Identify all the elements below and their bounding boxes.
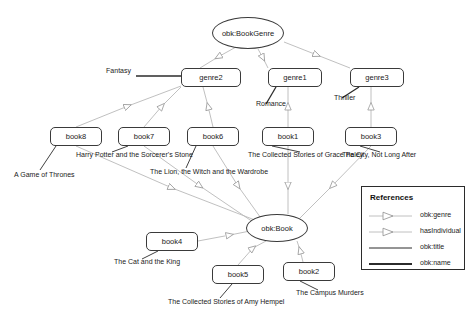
book-node-book2[interactable]: book2 [283,262,335,281]
book-title-label-title-book7: Harry Potter and the Sorcerer's Stone [76,151,193,158]
class-node-bookgenre[interactable]: obk:BookGenre [212,17,284,49]
book-node-book1[interactable]: book1 [262,127,314,146]
legend-swatch-hasindividual [368,225,414,239]
book-title-label-title-book2: The Campus Murders [296,289,364,296]
genre-node-genre2[interactable]: genre2 [181,68,241,87]
genre-name-label-fantasy: Fantasy [0,67,131,74]
legend-label-obk-title: obk:title [420,243,444,250]
book-node-book3[interactable]: book3 [345,127,397,146]
edges-hasindividual-genre [200,42,350,68]
legend-title: References [370,193,413,202]
book-node-book5[interactable]: book5 [212,265,264,284]
book-node-book6[interactable]: book6 [187,127,239,146]
genre-node-genre3[interactable]: genre3 [350,68,404,87]
book-title-label-title-book8: A Game of Thrones [14,171,75,178]
genre-name-label-romance: Romance [256,100,286,107]
legend-label-obk-genre: obk:genre [420,211,451,218]
legend-label-hasindividual: hasIndividual [420,227,461,234]
legend-item-hasindividual: hasIndividual [368,225,464,239]
book-title-label-title-book5: The Collected Stories of Amy Hempel [168,298,284,305]
book-title-label-title-book6: The Lion, the Witch and the Wardrobe [150,168,268,175]
book-title-label-title-book3: The City, Not Long After [342,151,416,158]
legend-item-obk-name: obk:name [368,257,464,271]
legend-label-obk-name: obk:name [420,259,451,266]
class-node-book[interactable]: obk:Book [246,214,308,242]
edges-obk-genre [76,86,371,127]
book-node-book7[interactable]: book7 [118,127,170,146]
genre-node-genre1[interactable]: genre1 [268,68,322,87]
legend-swatch-obk-genre [368,209,414,223]
genre-name-label-thriller: Thriller [334,94,355,101]
book-title-label-title-book4: The Cat and the King [114,258,180,265]
legend-references: References obk:genrehasIndividualobk:tit… [361,186,465,270]
legend-swatch-obk-title [368,241,414,255]
book-node-book4[interactable]: book4 [146,232,198,251]
book-node-book8[interactable]: book8 [50,127,102,146]
edges-hasindividual-book [76,146,371,265]
legend-swatch-obk-name [368,257,414,271]
legend-item-obk-genre: obk:genre [368,209,464,223]
legend-item-obk-title: obk:title [368,241,464,255]
